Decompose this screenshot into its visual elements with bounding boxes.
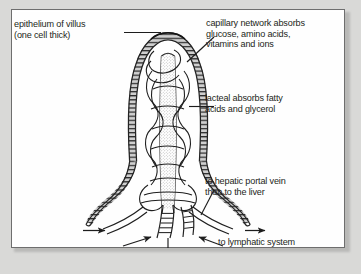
label-capillary-network: capillary network absorbs glucose, amino… [206, 18, 305, 50]
label-lacteal: lacteal absorbs fatty acids and glycerol [205, 93, 283, 114]
label-epithelium: epithelium of villus (one cell thick) [14, 19, 85, 40]
lacteal-vessel [160, 53, 176, 209]
figure-page: epithelium of villus (one cell thick) ca… [0, 0, 361, 274]
blood-vessels-out [103, 205, 233, 234]
label-lymphatic-system: to lymphatic system [218, 237, 295, 248]
label-hepatic-portal-vein: to hepatic portal vein then to the liver [205, 176, 286, 197]
